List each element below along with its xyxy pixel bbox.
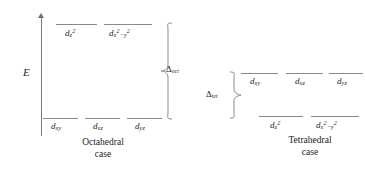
orbital-sub: xz xyxy=(98,124,103,131)
octahedral-splitting-label: Δoct xyxy=(166,64,179,74)
tetrahedral-label-dz2: dz2 xyxy=(270,119,280,130)
octahedral-lower-level-dxy xyxy=(43,118,78,119)
octahedral-lower-level-dxz xyxy=(85,118,120,119)
octahedral-label-dz2: dz2 xyxy=(65,27,75,38)
tetrahedral-splitting-label: Δtet xyxy=(206,89,218,99)
orbital-sub-tail: −y xyxy=(120,31,127,38)
octahedral-caption-line2: case xyxy=(58,149,148,161)
orbital-sup-tail: 2 xyxy=(334,119,337,126)
octahedral-caption-line1: Octahedral xyxy=(58,137,148,149)
crystal-field-splitting-figure: E dz2 dx2−y2 dxy dxz dyz Δoct Octahedral… xyxy=(0,0,365,182)
orbital-sub: yz xyxy=(140,124,145,131)
delta-subscript: oct xyxy=(172,68,179,74)
octahedral-caption: Octahedral case xyxy=(58,137,148,160)
tetrahedral-upper-level-dyz xyxy=(329,73,363,74)
orbital-sub: yz xyxy=(342,79,347,86)
octahedral-label-dxz: dxz xyxy=(93,121,103,131)
tetrahedral-upper-level-dxz xyxy=(286,73,323,74)
tetrahedral-label-dyz: dyz xyxy=(337,76,347,86)
octahedral-upper-level-dx2y2 xyxy=(104,24,152,25)
energy-axis-label: E xyxy=(23,66,30,78)
orbital-sup-tail: 2 xyxy=(127,27,130,34)
energy-axis-line xyxy=(41,18,42,136)
tetrahedral-caption-line1: Tetrahedral xyxy=(262,135,358,147)
tetrahedral-splitting-brace xyxy=(228,71,242,119)
orbital-sup: 2 xyxy=(277,119,280,126)
tetrahedral-caption-line2: case xyxy=(262,147,358,159)
tetrahedral-label-dx2y2: dx2−y2 xyxy=(316,119,337,130)
octahedral-label-dxy: dxy xyxy=(51,121,61,131)
octahedral-label-dx2y2: dx2−y2 xyxy=(109,27,130,38)
orbital-sub-tail: −y xyxy=(327,123,334,130)
octahedral-label-dyz: dyz xyxy=(135,121,145,131)
orbital-sub: xy xyxy=(255,79,261,86)
octahedral-lower-level-dyz xyxy=(127,118,162,119)
orbital-sup: 2 xyxy=(72,27,75,34)
octahedral-upper-level-dz2 xyxy=(56,24,97,25)
tetrahedral-lower-level-dx2y2 xyxy=(311,116,359,117)
orbital-sub: xz xyxy=(300,79,305,86)
tetrahedral-label-dxz: dxz xyxy=(295,76,305,86)
tetrahedral-lower-level-dz2 xyxy=(259,116,303,117)
tetrahedral-upper-level-dxy xyxy=(241,73,278,74)
delta-subscript: tet xyxy=(212,93,218,99)
orbital-sub: xy xyxy=(56,124,62,131)
tetrahedral-caption: Tetrahedral case xyxy=(262,135,358,158)
tetrahedral-label-dxy: dxy xyxy=(250,76,260,86)
